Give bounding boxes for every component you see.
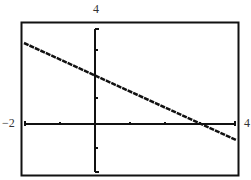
y-axis (95, 29, 99, 172)
graph-line (24, 43, 236, 140)
viewing-window-frame (22, 23, 239, 176)
x-axis (25, 121, 235, 126)
graph-plot (0, 0, 251, 180)
